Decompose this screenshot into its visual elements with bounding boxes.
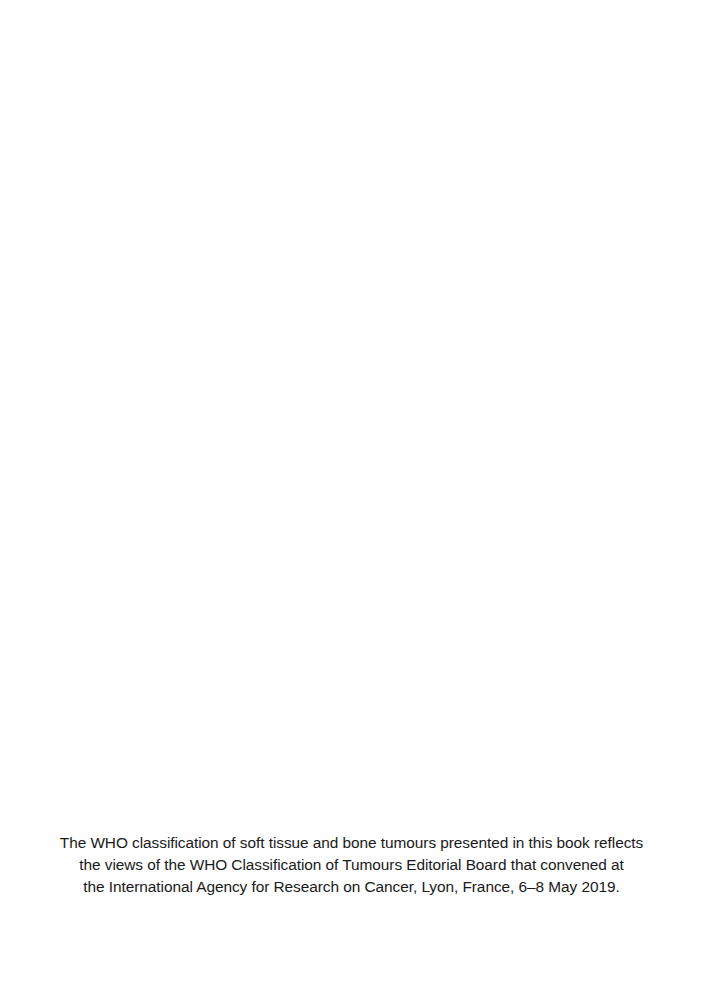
editorial-board-statement: The WHO classification of soft tissue an… [0, 832, 703, 898]
statement-line-2: the views of the WHO Classification of T… [0, 854, 703, 876]
statement-line-3: the International Agency for Research on… [0, 876, 703, 898]
document-page: The WHO classification of soft tissue an… [0, 0, 703, 1000]
statement-line-1: The WHO classification of soft tissue an… [0, 832, 703, 854]
